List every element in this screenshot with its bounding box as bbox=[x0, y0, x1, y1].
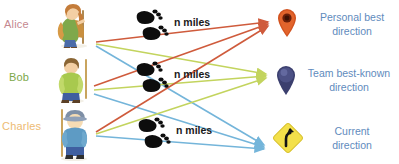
location-balloon-icon bbox=[275, 64, 297, 96]
target-label-line2: direction bbox=[308, 24, 396, 38]
person-label-charles: Charles bbox=[2, 120, 41, 132]
distance-group: n miles bbox=[136, 116, 212, 152]
target-label-personal-best: Personal best direction bbox=[308, 10, 396, 38]
distance-label: n miles bbox=[174, 16, 210, 28]
distance-group: n miles bbox=[134, 60, 210, 96]
person-label-bob: Bob bbox=[9, 71, 29, 83]
target-label-current: Current direction bbox=[310, 124, 394, 152]
target-label-team-best-known: Team best-known direction bbox=[300, 66, 398, 94]
target-label-line1: Personal best bbox=[308, 10, 396, 24]
map-pin-icon bbox=[276, 8, 298, 38]
distance-group: n miles bbox=[134, 8, 210, 44]
footprints-icon bbox=[136, 116, 174, 152]
target-label-line2: direction bbox=[310, 138, 394, 152]
hiker-with-staff-icon bbox=[52, 57, 94, 103]
target-label-line2: direction bbox=[300, 80, 398, 94]
footprints-icon bbox=[134, 60, 172, 96]
distance-label: n miles bbox=[176, 124, 212, 136]
hiker-with-backpack-icon bbox=[52, 2, 96, 48]
person-label-alice: Alice bbox=[4, 18, 29, 30]
diagram-canvas: Alice Bob Charles bbox=[0, 0, 399, 164]
hiker-with-hat-icon bbox=[52, 107, 96, 161]
distance-label: n miles bbox=[174, 68, 210, 80]
target-label-line1: Current bbox=[310, 124, 394, 138]
footprints-icon bbox=[134, 8, 172, 44]
target-label-line1: Team best-known bbox=[300, 66, 398, 80]
curve-road-sign-icon bbox=[272, 122, 304, 154]
